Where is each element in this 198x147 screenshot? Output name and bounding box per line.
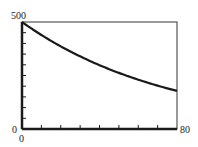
y-tick-label-top: 500 xyxy=(11,10,26,21)
x-tick-label-right: 80 xyxy=(180,124,190,135)
x-tick-label-left: 0 xyxy=(19,133,24,144)
y-tick-label-bottom: 0 xyxy=(12,124,17,135)
line-chart: 500 0 0 80 xyxy=(0,0,198,147)
data-line xyxy=(22,22,177,91)
